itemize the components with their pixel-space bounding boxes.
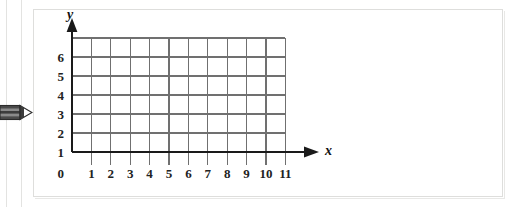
y-tick-label-5: 5 (50, 70, 64, 83)
grid-svg (52, 12, 342, 187)
origin-label: 0 (50, 167, 64, 180)
x-axis-arrow-icon (304, 147, 319, 158)
x-tick-label-11: 11 (276, 167, 294, 180)
coordinate-grid-graph: 6 5 4 3 2 1 0 1 2 3 4 5 6 7 8 9 10 11 y … (52, 12, 342, 187)
x-tick-label-6: 6 (179, 167, 197, 180)
x-tick-label-8: 8 (218, 167, 236, 180)
x-tick-label-9: 9 (238, 167, 256, 180)
x-tick-label-5: 5 (160, 167, 178, 180)
page-canvas: 6 5 4 3 2 1 0 1 2 3 4 5 6 7 8 9 10 11 y … (0, 0, 514, 207)
x-tick-label-4: 4 (141, 167, 159, 180)
x-tick-label-3: 3 (121, 167, 139, 180)
y-tick-label-4: 4 (50, 89, 64, 102)
grid-lines-horizontal (72, 38, 285, 133)
y-tick-label-2: 2 (50, 127, 64, 140)
y-tick-label-3: 3 (50, 108, 64, 121)
y-tick-label-1: 1 (50, 146, 64, 159)
x-tick-label-2: 2 (102, 167, 120, 180)
x-tick-label-1: 1 (82, 167, 100, 180)
x-axis-label: x (325, 144, 332, 158)
y-axis-label: y (67, 8, 73, 22)
y-tick-label-6: 6 (50, 51, 64, 64)
x-tick-label-10: 10 (257, 167, 275, 180)
x-tick-label-7: 7 (199, 167, 217, 180)
pencil-icon (0, 104, 33, 121)
